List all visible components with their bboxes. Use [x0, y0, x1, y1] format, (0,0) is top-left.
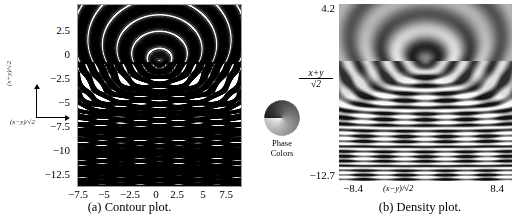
panel-a-xtick-0: −7.5	[66, 189, 90, 200]
density-plot-canvas	[339, 4, 512, 181]
panel-a-xtick-6: 7.5	[216, 189, 236, 200]
contour-plot-canvas	[78, 5, 241, 186]
panel-a-xtick-4: 2.5	[167, 189, 187, 200]
panel-a-ytick-2: −2.5	[33, 73, 70, 84]
figure-root: 2.5 0 −2.5 −5 −7.5 −10 −12.5 −7.5 −5 −2.…	[0, 0, 514, 222]
density-plot-frame	[339, 4, 512, 181]
panel-b-caption: (b) Density plot.	[345, 201, 495, 214]
panel-b-y-axis-label: x+y 2	[299, 68, 333, 89]
inset-y-axis-arrowhead-icon	[34, 84, 40, 89]
inset-x-axis-line	[36, 117, 66, 118]
panel-a-ytick-1: 0	[38, 49, 70, 60]
panel-b-ymax-label: 4.2	[301, 3, 335, 14]
inset-x-axis-arrowhead-icon	[65, 115, 70, 121]
panel-a-xtick-2: −2.5	[118, 189, 142, 200]
panel-a-caption: (a) Contour plot.	[57, 201, 202, 214]
inset-y-axis-line	[36, 88, 37, 118]
panel-b-ymin-label: −12.7	[297, 170, 335, 181]
panel-b-y-axis-label-denominator: 2	[299, 78, 333, 89]
panel-b-density-plot: 4.2 −12.7 −8.4 8.4 x+y 2 (x−y)/√2 (b) De…	[257, 0, 514, 222]
panel-b-x-axis-label: (x−y)/√2	[383, 184, 413, 192]
contour-plot-frame	[77, 4, 242, 187]
panel-a-ytick-6: −12.5	[30, 169, 70, 180]
panel-b-xmax-label: 8.4	[483, 183, 511, 194]
panel-b-y-axis-label-numerator: x+y	[299, 68, 333, 78]
panel-a-inset-axes: (x+y)/√2 (x−y)/√2	[8, 84, 70, 126]
panel-a-x-axis-label: (x−y)/√2	[10, 119, 35, 126]
panel-a-contour-plot: 2.5 0 −2.5 −5 −7.5 −10 −12.5 −7.5 −5 −2.…	[0, 0, 257, 222]
panel-a-y-axis-label: (x+y)/√2	[6, 61, 13, 86]
panel-a-xtick-1: −5	[95, 189, 113, 200]
panel-a-xtick-5: 5	[196, 189, 210, 200]
panel-b-xmin-label: −8.4	[336, 183, 370, 194]
panel-a-xtick-3: 0	[149, 189, 163, 200]
panel-a-ytick-0: 2.5	[38, 25, 70, 36]
panel-a-ytick-5: −10	[33, 145, 70, 156]
